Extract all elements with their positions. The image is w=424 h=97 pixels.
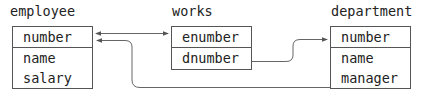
arrow-department-employee bbox=[97, 41, 330, 88]
relationship-arrows bbox=[0, 0, 424, 97]
arrow-works-department bbox=[252, 40, 327, 62]
